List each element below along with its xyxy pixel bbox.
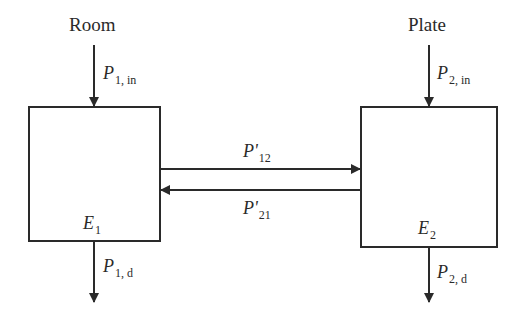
- room-input-label: P1, in: [103, 63, 136, 88]
- plate-energy-subscript: 2: [430, 228, 436, 242]
- plate-dissipation-symbol: P: [437, 262, 448, 282]
- plate-input-label: P2, in: [437, 63, 470, 88]
- plate-input-symbol: P: [437, 63, 448, 83]
- room-dissipation-subscript: 1, d: [115, 266, 133, 280]
- plate-energy-symbol: E: [418, 218, 429, 238]
- room-energy-subscript: 1: [95, 223, 101, 237]
- plate-energy-label: E2: [418, 218, 436, 243]
- coupling-12-subscript: 12: [259, 151, 271, 165]
- plate-title: Plate: [408, 14, 446, 36]
- room-energy-symbol: E: [83, 213, 94, 233]
- coupling-21-symbol: P': [243, 198, 258, 218]
- coupling-21-label: P'21: [243, 198, 271, 223]
- coupling-21-subscript: 21: [259, 208, 271, 222]
- coupling-12-label: P'12: [243, 141, 271, 166]
- plate-dissipation-label: P2, d: [437, 262, 467, 287]
- room-energy-label: E1: [83, 213, 101, 238]
- room-dissipation-symbol: P: [103, 256, 114, 276]
- plate-dissipation-subscript: 2, d: [449, 272, 467, 286]
- room-input-subscript: 1, in: [115, 73, 136, 87]
- plate-input-subscript: 2, in: [449, 73, 470, 87]
- coupling-12-symbol: P': [243, 141, 258, 161]
- room-title: Room: [69, 14, 115, 36]
- room-input-symbol: P: [103, 63, 114, 83]
- room-dissipation-label: P1, d: [103, 256, 133, 281]
